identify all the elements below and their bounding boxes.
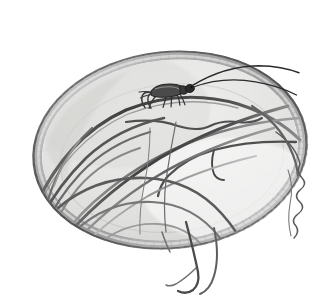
illustration-canvas: Pencil drawing of a cricket perched on a… (0, 0, 334, 304)
cricket-in-bowl-drawing (0, 0, 334, 304)
